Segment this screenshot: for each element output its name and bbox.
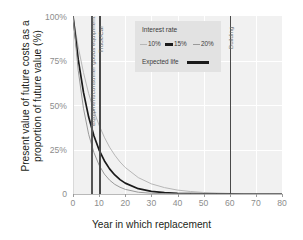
x-tick-60 [230, 194, 231, 197]
legend-swatch-20 [193, 44, 200, 46]
legend-swatch-10 [140, 44, 147, 46]
x-tick-0 [73, 194, 74, 197]
legend-item-10: 10% [148, 40, 161, 47]
legend-item-15: 15% [174, 40, 187, 47]
x-tick-label-20: 20 [113, 198, 137, 208]
y-tick-label-50: 50% [37, 101, 67, 111]
x-tick-10 [99, 194, 100, 197]
x-tick-label-60: 60 [218, 198, 242, 208]
x-tick-label-50: 50 [192, 198, 216, 208]
marker-label-truck: Truck/Car [97, 26, 104, 53]
x-tick-50 [204, 194, 205, 197]
x-tick-70 [256, 194, 257, 197]
x-tick-20 [125, 194, 126, 197]
x-tick-30 [151, 194, 152, 197]
y-axis-title: Present value of future costs as a propo… [15, 1, 49, 191]
chart-legend: Interest rate 10% 15% 20% Expected life [135, 21, 221, 72]
legend-swatch-expected-life [187, 61, 209, 64]
x-tick-label-10: 10 [87, 198, 111, 208]
legend-swatch-15 [165, 43, 173, 46]
legend-item-20: 20% [201, 40, 214, 47]
y-tick-label-75: 75% [37, 56, 67, 66]
legend-title: Interest rate [142, 26, 177, 33]
chart-figure: Present value of future costs as a propo… [0, 0, 303, 240]
marker-label-building: Building [227, 27, 234, 49]
x-tick-label-30: 30 [139, 198, 163, 208]
y-tick-label-100: 100% [37, 12, 67, 22]
x-tick-label-70: 70 [244, 198, 268, 208]
y-tick-label-25: 25% [37, 145, 67, 155]
x-tick-label-0: 0 [61, 198, 85, 208]
x-tick-label-80: 80 [270, 198, 294, 208]
y-axis-title-line1: Present value of future costs as a [20, 20, 32, 171]
x-tick-label-40: 40 [166, 198, 190, 208]
marker-label-equipment: Equipment/consumer goods equipment [89, 17, 96, 126]
x-axis-title: Year in which replacement [0, 219, 303, 230]
x-tick-80 [282, 194, 283, 197]
x-tick-40 [178, 194, 179, 197]
legend-item-expected-life: Expected life [142, 58, 179, 65]
